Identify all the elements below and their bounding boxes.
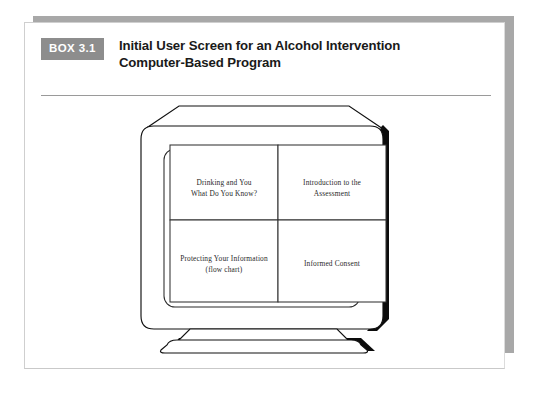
- monitor-figure: Drinking and You What Do You Know? Intro…: [37, 101, 495, 363]
- box-header: BOX 3.1 Initial User Screen for an Alcoh…: [41, 37, 488, 72]
- box-card: BOX 3.1 Initial User Screen for an Alcoh…: [24, 22, 505, 369]
- screen-panel-grid: Drinking and You What Do You Know? Intro…: [170, 145, 386, 302]
- panel-introduction-to-the-assessment-line-1: Introduction to the: [303, 178, 361, 187]
- monitor-illustration-svg: Drinking and You What Do You Know? Intro…: [37, 101, 495, 363]
- panel-informed-consent[interactable]: Informed Consent: [278, 220, 386, 302]
- panel-protecting-your-information-line-1: Protecting Your Information: [180, 254, 268, 263]
- header-divider-rule: [41, 95, 491, 96]
- box-title-line-2: Computer-Based Program: [119, 54, 400, 71]
- panel-drinking-and-you-line-1: Drinking and You: [196, 178, 251, 187]
- panel-protecting-your-information[interactable]: Protecting Your Information (flow chart): [170, 220, 278, 302]
- panel-introduction-to-the-assessment-line-2: Assessment: [314, 189, 351, 198]
- panel-protecting-your-information-line-2: (flow chart): [206, 265, 243, 274]
- box-number-badge: BOX 3.1: [41, 38, 104, 60]
- box-title-line-1: Initial User Screen for an Alcohol Inter…: [119, 37, 400, 54]
- panel-drinking-and-you[interactable]: Drinking and You What Do You Know?: [170, 145, 278, 220]
- panel-drinking-and-you-line-2: What Do You Know?: [191, 189, 257, 198]
- panel-informed-consent-line-1: Informed Consent: [304, 259, 361, 268]
- scanned-page: BOX 3.1 Initial User Screen for an Alcoh…: [0, 0, 556, 394]
- box-title: Initial User Screen for an Alcohol Inter…: [119, 37, 400, 72]
- panel-introduction-to-the-assessment[interactable]: Introduction to the Assessment: [278, 145, 386, 220]
- monitor-base: [161, 340, 368, 353]
- monitor-stand-neck: [178, 329, 349, 341]
